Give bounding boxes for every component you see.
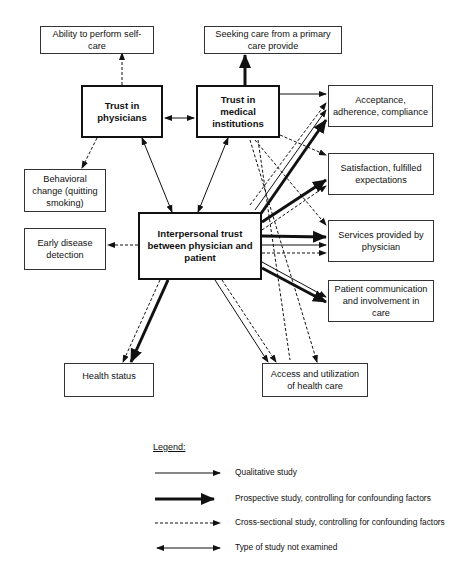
node-early-detection: Early disease detection <box>24 228 106 270</box>
node-satisfaction: Satisfaction, fulfilled expectations <box>328 153 434 195</box>
legend-label-not-examined: Type of study not examined <box>235 542 337 552</box>
node-services: Services provided by physician <box>328 220 434 262</box>
node-access: Access and utilization of health care <box>262 363 368 397</box>
node-health-status: Health status <box>64 363 154 397</box>
legend-title: Legend: <box>153 442 186 452</box>
node-behavioral-change: Behavioral change (quitting smoking) <box>24 169 106 212</box>
node-trust-physicians: Trust in physicians <box>81 85 163 138</box>
node-communication: Patient communication and involvement in… <box>328 280 434 322</box>
legend-label-crosssectional: Cross-sectional study, controlling for c… <box>235 517 445 527</box>
node-acceptance: Acceptance, adherence, compliance <box>328 85 433 127</box>
node-self-care: Ability to perform self-care <box>40 26 154 54</box>
legend-label-prospective: Prospective study, controlling for confo… <box>235 493 431 503</box>
node-interpersonal-trust: Interpersonal trust between physician an… <box>138 212 262 280</box>
node-primary-care: Seeking care from a primary care provide <box>204 26 342 54</box>
node-trust-institutions: Trust in medical institutions <box>196 85 280 138</box>
legend-label-qualitative: Qualitative study <box>235 467 297 477</box>
